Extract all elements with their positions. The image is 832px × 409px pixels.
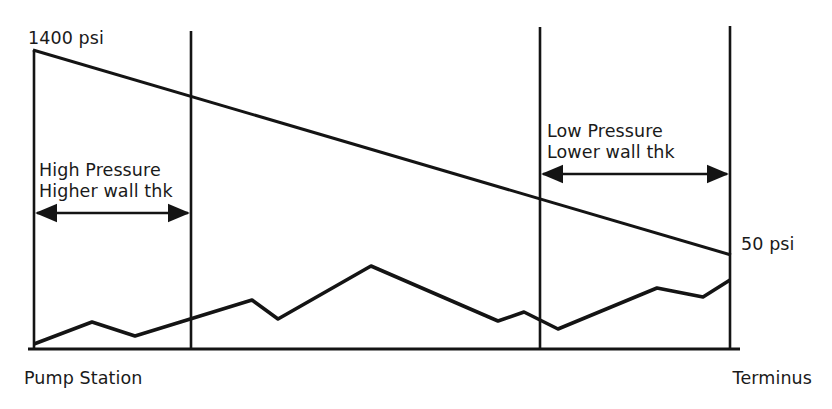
high-pressure-callout-line2: Higher wall thk	[39, 181, 173, 201]
pipeline-pressure-diagram: 1400 psi 50 psi High Pressure Higher wal…	[0, 0, 832, 409]
low-pressure-callout-line2: Lower wall thk	[547, 142, 676, 162]
terminus-label: Terminus	[732, 368, 812, 388]
ground-elevation-profile	[34, 266, 730, 344]
low-pressure-callout-line1: Low Pressure	[547, 121, 663, 141]
end-pressure-label: 50 psi	[741, 234, 795, 254]
pump-station-label: Pump Station	[24, 368, 142, 388]
high-pressure-callout-line1: High Pressure	[39, 160, 161, 180]
diagram-canvas: 1400 psi 50 psi High Pressure Higher wal…	[0, 0, 832, 409]
start-pressure-label: 1400 psi	[28, 28, 104, 48]
